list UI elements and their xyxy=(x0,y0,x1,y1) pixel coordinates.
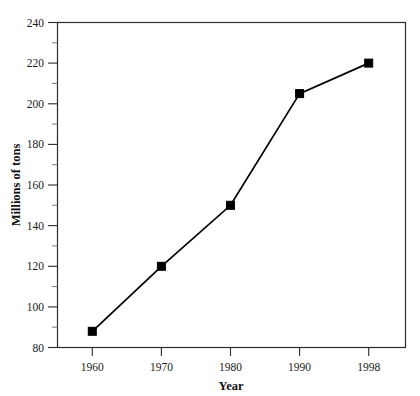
line-chart: 240 220 200 180 160 140 120 100 80 1960 … xyxy=(0,0,420,396)
data-point-1998 xyxy=(365,59,373,67)
data-point-1970 xyxy=(157,262,165,270)
x-tick-label: 1960 xyxy=(81,361,104,373)
chart-background xyxy=(0,0,420,396)
y-tick-label: 120 xyxy=(27,260,45,272)
data-point-1960 xyxy=(88,327,96,335)
chart-figure: 240 220 200 180 160 140 120 100 80 1960 … xyxy=(0,0,420,396)
y-tick-label: 160 xyxy=(27,179,45,191)
y-tick-label: 200 xyxy=(27,98,45,110)
y-tick-label: 240 xyxy=(27,17,45,29)
x-tick-label: 1980 xyxy=(219,361,242,373)
y-tick-label: 140 xyxy=(27,220,45,232)
y-tick-label: 80 xyxy=(33,342,45,354)
y-axis-tick-labels: 240 220 200 180 160 140 120 100 80 xyxy=(27,17,45,354)
y-tick-label: 220 xyxy=(27,57,45,69)
data-point-1990 xyxy=(296,90,304,98)
y-axis-title: Millions of tons xyxy=(9,144,23,227)
x-tick-label: 1970 xyxy=(150,361,173,373)
y-tick-label: 100 xyxy=(27,301,45,313)
y-tick-label: 180 xyxy=(27,138,45,150)
x-tick-label: 1990 xyxy=(288,361,311,373)
x-tick-label: 1998 xyxy=(357,361,380,373)
x-axis-title: Year xyxy=(219,379,244,393)
data-point-1980 xyxy=(227,201,235,209)
